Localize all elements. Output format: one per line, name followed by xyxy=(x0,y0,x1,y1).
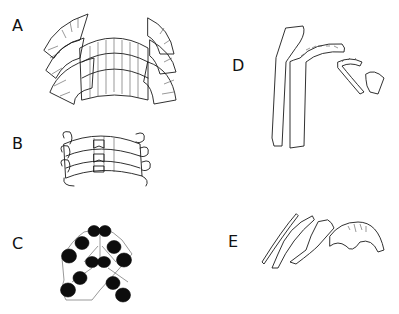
panel-d-drawing xyxy=(272,26,384,148)
panel-a-drawing xyxy=(44,14,176,104)
panel-c-drawing xyxy=(61,226,133,303)
panel-label-b: B xyxy=(12,136,23,152)
panel-label-d: D xyxy=(232,58,244,74)
panel-label-e: E xyxy=(228,234,238,250)
figure-canvas xyxy=(0,0,399,314)
panel-label-c: C xyxy=(12,236,23,252)
panel-label-a: A xyxy=(12,18,23,34)
panel-b-drawing xyxy=(61,132,150,186)
panel-e-drawing xyxy=(262,214,384,268)
